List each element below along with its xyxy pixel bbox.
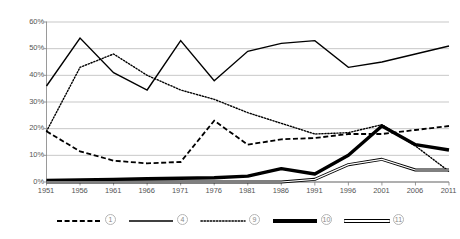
legend-label-11: 11 <box>393 214 404 225</box>
legend-swatch-double-icon <box>344 213 390 225</box>
legend-swatch-solid-thick-icon <box>272 213 318 225</box>
series-line-10 <box>47 126 450 180</box>
legend-item-9[interactable]: 9 <box>200 213 260 225</box>
x-tick-label-2011: 2011 <box>429 186 460 196</box>
legend-item-4[interactable]: 4 <box>128 213 188 225</box>
line-chart: 60%50%40%30%20%10%0% 1951195619611966197… <box>0 0 460 239</box>
legend-item-1[interactable]: 1 <box>56 213 116 225</box>
x-axis: 1951195619611966197119761981198619911996… <box>46 186 449 200</box>
series-line-1 <box>47 121 450 164</box>
series-line-9 <box>47 54 450 171</box>
legend-swatch-solid-thin-icon <box>128 213 174 225</box>
data-series-group <box>47 38 450 182</box>
gridlines <box>47 22 450 182</box>
legend-label-10: 10 <box>321 214 332 225</box>
series-line-4 <box>47 38 450 90</box>
plot-canvas <box>0 0 460 239</box>
legend-label-4: 4 <box>177 214 188 225</box>
legend-item-11[interactable]: 11 <box>344 213 404 225</box>
legend-swatch-dotted-icon <box>200 213 246 225</box>
legend-label-1: 1 <box>105 214 116 225</box>
legend-item-10[interactable]: 10 <box>272 213 332 225</box>
chart-legend: 1491011 <box>0 206 460 232</box>
legend-label-9: 9 <box>249 214 260 225</box>
legend-swatch-dashed-icon <box>56 213 102 225</box>
